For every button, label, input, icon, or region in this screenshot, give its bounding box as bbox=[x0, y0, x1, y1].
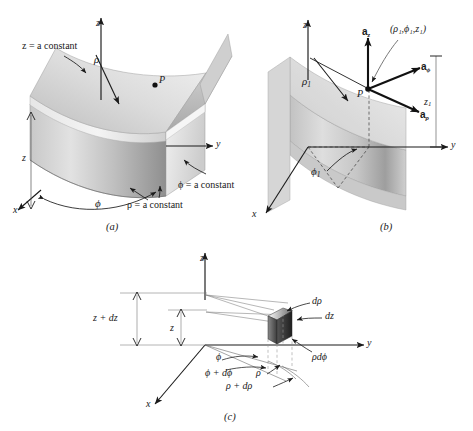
label-dz: dz bbox=[325, 311, 334, 321]
panel-c-proj-1 bbox=[206, 295, 274, 310]
label-rho-plus-drho: ρ + dρ bbox=[226, 381, 252, 391]
panel-a-x-axis-label: x bbox=[13, 205, 17, 215]
unit-vector-a-phi-label: aϕ bbox=[421, 62, 430, 73]
panel-a-point-label: P bbox=[159, 75, 165, 85]
panel-a-z-height-label: z bbox=[22, 153, 26, 163]
figure-vector-art bbox=[0, 0, 473, 431]
panel-a-phi-label: ϕ bbox=[95, 198, 101, 209]
panel-a-caption: (a) bbox=[106, 222, 118, 233]
panel-b-caption: (b) bbox=[380, 222, 392, 233]
panel-a-z-axis-label: z bbox=[96, 18, 100, 28]
label-phi-plus-dphi: ϕ + dϕ bbox=[205, 368, 232, 378]
panel-b-point-P bbox=[365, 86, 371, 92]
panel-c-z-axis-label: z bbox=[200, 253, 204, 263]
panel-c-x-axis bbox=[155, 345, 205, 404]
panel-b-rho1-label: ρ1 bbox=[302, 76, 311, 88]
panel-b-z1-label: z1 bbox=[424, 97, 431, 108]
label-d-rho: dρ bbox=[312, 296, 322, 306]
panel-b-phi1-label: ϕ1 bbox=[311, 166, 320, 178]
panel-a-y-axis-label: y bbox=[216, 139, 220, 149]
surface-z-constant-back bbox=[200, 34, 232, 104]
panel-c-phi-label: ϕ bbox=[216, 352, 221, 362]
panel-c-arc-rho-drho bbox=[282, 366, 309, 387]
panel-a-rho-label: ρ bbox=[94, 54, 99, 65]
label-rho-d-phi: ρdϕ bbox=[312, 352, 327, 362]
leader-point-coords bbox=[372, 40, 398, 82]
panel-c-x-axis-label: x bbox=[146, 399, 150, 409]
leader-dz bbox=[297, 318, 322, 320]
panel-a-point-P bbox=[152, 82, 157, 87]
cylindrical-coordinates-figure: z y x z = a constant ϕ = a constant ρ = … bbox=[0, 0, 473, 431]
unit-vector-a-z-label: az bbox=[362, 27, 370, 38]
label-z-constant: z = a constant bbox=[22, 41, 77, 51]
label-rho-constant: ρ = a constant bbox=[127, 200, 183, 210]
leader-d-rho bbox=[287, 303, 310, 311]
panel-b-y-axis-label: y bbox=[451, 140, 455, 150]
panel-c-y-axis-label: y bbox=[367, 338, 371, 348]
panel-b-point-label: P bbox=[357, 89, 363, 99]
volume-element-front bbox=[268, 316, 277, 344]
unit-vector-a-phi bbox=[368, 68, 420, 89]
panel-c-caption: (c) bbox=[224, 412, 236, 423]
unit-vector-a-rho-label: aρ bbox=[420, 110, 429, 121]
panel-b-left-sheet bbox=[268, 57, 290, 212]
label-phi-constant: ϕ = a constant bbox=[178, 180, 234, 190]
leader-rho bbox=[267, 365, 280, 374]
panel-c-phi-arc bbox=[222, 356, 258, 360]
label-z-plus-dz: z + dz bbox=[93, 313, 118, 323]
panel-c-z-label: z bbox=[170, 323, 174, 333]
label-point-coordinates: (ρ₁,ϕ₁,z₁) bbox=[390, 24, 426, 34]
panel-b-z-axis-label: z bbox=[303, 20, 307, 30]
panel-b-x-axis-label: x bbox=[252, 209, 256, 219]
panel-c-rho-label: ρ bbox=[256, 368, 261, 378]
